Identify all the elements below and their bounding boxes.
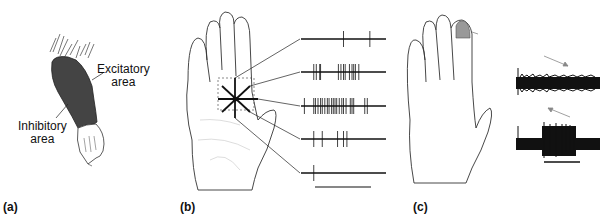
panel-label-a: (a): [3, 200, 18, 214]
inhibitory-label: Inhibitory area: [18, 120, 67, 146]
trace-no-response: [516, 68, 600, 95]
inhibitory-leader-line: [56, 104, 68, 118]
panel-label-c: (c): [413, 200, 428, 214]
panel-a: Excitatory area Inhibitory area (a): [0, 0, 165, 223]
panel-c: (c): [400, 0, 611, 223]
hand-outline: [187, 12, 276, 190]
forearm-illustration: [0, 0, 165, 223]
trace-burst-response: [516, 122, 600, 162]
excitatory-area-shape: [52, 57, 97, 128]
finger-stimulation-diagram: [400, 0, 611, 223]
excitatory-label: Excitatory area: [97, 63, 150, 89]
hand-outline: [407, 15, 491, 183]
panel-b: (b): [170, 0, 400, 223]
hand-outline: [77, 124, 104, 164]
hand-direction-diagram: [170, 0, 400, 223]
panel-label-b: (b): [180, 200, 195, 214]
